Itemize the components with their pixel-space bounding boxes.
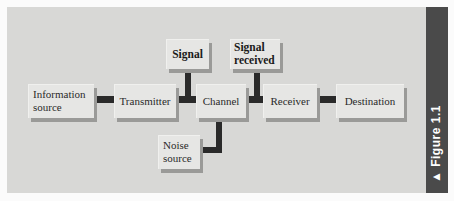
figure-canvas: Information source Transmitter Channel R… xyxy=(0,0,454,201)
connector-noise-horizontal xyxy=(199,147,222,153)
node-noise-source: Noise source xyxy=(158,135,200,169)
node-signal-label: Signal xyxy=(172,48,203,61)
node-noise-source-label: Noise source xyxy=(163,139,192,165)
connector-signal-received-stem xyxy=(254,68,260,100)
node-information-source: Information source xyxy=(28,84,94,118)
node-transmitter: Transmitter xyxy=(114,84,176,118)
node-receiver: Receiver xyxy=(263,84,317,118)
node-signal-received-label: Signal received xyxy=(234,41,275,67)
node-transmitter-label: Transmitter xyxy=(120,95,171,108)
connector-signal-stem xyxy=(185,68,191,100)
node-destination: Destination xyxy=(336,84,404,118)
node-information-source-label: Information source xyxy=(33,88,86,114)
figure-label: ▲ Figure 1.1 xyxy=(429,105,443,183)
connector-info-transmitter xyxy=(95,96,116,103)
node-channel-label: Channel xyxy=(203,95,240,108)
figure-sidebar: ▲ Figure 1.1 xyxy=(426,7,448,193)
node-destination-label: Destination xyxy=(345,95,396,108)
node-channel: Channel xyxy=(196,84,246,118)
node-signal: Signal xyxy=(166,39,209,69)
node-signal-received: Signal received xyxy=(230,39,280,69)
connector-receiver-destination xyxy=(317,96,338,103)
node-receiver-label: Receiver xyxy=(270,95,309,108)
